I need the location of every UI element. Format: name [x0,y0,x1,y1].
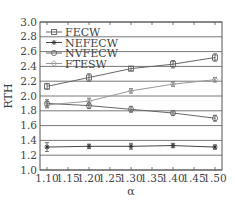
x-tick-label: 1.30 [119,172,142,184]
x-tick-label: 1.45 [182,172,205,184]
y-tick-label: 2.8 [20,30,37,42]
y-tick-label: 1.8 [20,104,37,116]
y-tick-label: 1.4 [20,134,37,146]
star-marker-icon [129,144,134,149]
star-marker-icon [171,143,176,148]
star-marker-icon [213,145,218,150]
y-axis-label: RTH [2,83,15,108]
star-marker-icon [45,145,50,150]
star-marker-icon [87,144,92,149]
star-marker-icon [52,40,57,45]
y-tick-label: 2.6 [20,45,37,57]
x-tick-label: 1.25 [98,172,121,184]
x-tick-label: 1.35 [140,172,163,184]
y-tick-label: 2.0 [20,90,37,102]
x-tick-label: 1.40 [161,172,184,184]
legend-label: FTESW [65,58,108,71]
y-tick-label: 1.2 [20,149,37,161]
x-axis-label: α [127,185,135,198]
x-tick-label: 1.50 [203,172,226,184]
y-tick-label: 2.2 [20,75,37,87]
y-tick-label: 3.0 [20,16,37,28]
y-tick-label: 1.6 [20,119,37,131]
x-tick-label: 1.20 [77,172,100,184]
line-chart: 1.01.21.41.61.82.02.22.42.62.83.01.101.1… [0,0,235,204]
x-tick-label: 1.10 [35,172,58,184]
y-tick-label: 2.4 [20,60,37,72]
x-tick-label: 1.15 [56,172,79,184]
